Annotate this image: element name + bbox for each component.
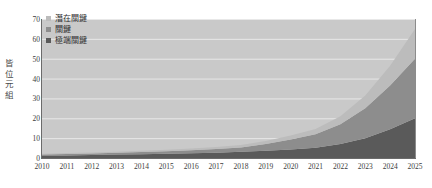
legend-item[interactable]: 關鍵 xyxy=(46,25,87,35)
x-tick-label: 2024 xyxy=(383,162,398,171)
y-axis-ticks: 010203040506070 xyxy=(16,0,40,188)
legend-swatch-icon xyxy=(46,27,51,32)
x-axis-ticks: 2010201120122013201420152016201720182019… xyxy=(0,162,432,176)
y-axis-title: 皆 位 元 組 xyxy=(2,58,16,100)
plot-area xyxy=(42,19,416,158)
y-tick-label: 10 xyxy=(18,134,40,143)
y-axis-title-char: 皆 xyxy=(2,58,16,69)
legend-label: 極端關鍵 xyxy=(55,36,87,46)
area-series-group xyxy=(42,19,415,158)
x-tick-label: 2015 xyxy=(159,162,174,171)
y-axis-title-char: 組 xyxy=(2,90,16,101)
chart-legend: 潛在關鍵關鍵極端關鍵 xyxy=(46,14,87,47)
legend-swatch-icon xyxy=(46,38,51,43)
y-tick-label: 40 xyxy=(18,74,40,83)
x-tick-label: 2014 xyxy=(134,162,149,171)
y-tick-label: 70 xyxy=(18,15,40,24)
y-axis-title-char: 位 xyxy=(2,69,16,80)
y-tick-label: 30 xyxy=(18,94,40,103)
legend-label: 潛在關鍵 xyxy=(55,14,87,24)
x-tick-label: 2023 xyxy=(358,162,373,171)
stacked-area-chart: 皆 位 元 組 010203040506070 潛在關鍵關鍵極端關鍵 20102… xyxy=(0,0,432,188)
x-tick-label: 2022 xyxy=(333,162,348,171)
legend-label: 關鍵 xyxy=(55,25,71,35)
x-tick-label: 2010 xyxy=(35,162,50,171)
legend-item[interactable]: 潛在關鍵 xyxy=(46,14,87,24)
x-tick-label: 2016 xyxy=(184,162,199,171)
x-tick-label: 2019 xyxy=(258,162,273,171)
legend-item[interactable]: 極端關鍵 xyxy=(46,36,87,46)
x-axis-line xyxy=(41,158,416,159)
y-axis-title-char: 元 xyxy=(2,79,16,90)
x-tick-label: 2018 xyxy=(233,162,248,171)
x-tick-label: 2021 xyxy=(308,162,323,171)
y-tick-label: 50 xyxy=(18,54,40,63)
y-tick-label: 20 xyxy=(18,114,40,123)
x-tick-label: 2020 xyxy=(283,162,298,171)
y-tick-label: 60 xyxy=(18,34,40,43)
x-tick-label: 2017 xyxy=(209,162,224,171)
x-tick-label: 2012 xyxy=(84,162,99,171)
x-tick-label: 2025 xyxy=(408,162,423,171)
x-tick-label: 2013 xyxy=(109,162,124,171)
legend-swatch-icon xyxy=(46,16,51,21)
x-tick-label: 2011 xyxy=(59,162,74,171)
